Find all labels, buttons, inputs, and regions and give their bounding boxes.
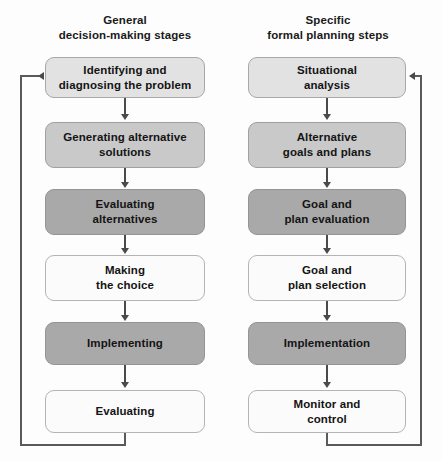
node-general-step-6-line1: Evaluating — [95, 404, 154, 419]
arrowhead-specific-5-6 — [323, 382, 331, 388]
arrowhead-feedback-specific — [409, 72, 415, 80]
flowchart-diagram: General decision-making stages Specific … — [0, 0, 442, 461]
node-general-step-2-line2: solutions — [63, 145, 187, 160]
connector-general-2-3 — [124, 168, 126, 183]
node-general-step-5-line1: Implementing — [87, 336, 163, 351]
node-general-step-3[interactable]: Evaluating alternatives — [45, 189, 205, 235]
arrowhead-specific-4-5 — [323, 315, 331, 321]
node-specific-step-4-line1: Goal and — [288, 263, 366, 278]
arrowhead-general-5-6 — [121, 382, 129, 388]
arrowhead-general-4-5 — [121, 315, 129, 321]
node-general-step-4-line1: Making — [96, 263, 154, 278]
node-specific-step-1-line2: analysis — [297, 78, 357, 93]
column-header-specific: Specific formal planning steps — [228, 13, 428, 43]
feedback-general-up — [20, 76, 22, 445]
node-specific-step-3[interactable]: Goal and plan evaluation — [248, 189, 406, 235]
arrowhead-specific-3-4 — [323, 248, 331, 254]
node-specific-step-6-line2: control — [294, 412, 361, 427]
node-specific-step-5-line1: Implementation — [284, 336, 370, 351]
node-general-step-3-line1: Evaluating — [92, 197, 157, 212]
connector-general-5-6 — [124, 365, 126, 383]
connector-general-3-4 — [124, 235, 126, 249]
feedback-specific-top — [414, 75, 422, 77]
connector-specific-5-6 — [326, 365, 328, 383]
node-specific-step-6[interactable]: Monitor and control — [248, 390, 406, 433]
node-general-step-1[interactable]: Identifying and diagnosing the problem — [45, 57, 205, 98]
node-general-step-4[interactable]: Making the choice — [45, 255, 205, 301]
node-specific-step-1-line1: Situational — [297, 63, 357, 78]
column-header-specific-line1: Specific — [228, 13, 428, 28]
node-general-step-5[interactable]: Implementing — [45, 322, 205, 365]
node-general-step-3-line2: alternatives — [92, 212, 157, 227]
node-specific-step-1[interactable]: Situational analysis — [248, 57, 406, 98]
node-specific-step-5[interactable]: Implementation — [248, 322, 406, 365]
node-specific-step-4[interactable]: Goal and plan selection — [248, 255, 406, 301]
connector-specific-4-5 — [326, 301, 328, 316]
feedback-specific-up — [420, 76, 422, 445]
arrowhead-specific-2-3 — [323, 182, 331, 188]
feedback-general-bottom — [20, 444, 126, 446]
connector-specific-1-2 — [326, 98, 328, 115]
node-general-step-6[interactable]: Evaluating — [45, 390, 205, 433]
node-general-step-2[interactable]: Generating alternative solutions — [45, 122, 205, 168]
arrowhead-general-2-3 — [121, 182, 129, 188]
arrowhead-specific-1-2 — [323, 114, 331, 120]
node-general-step-2-line1: Generating alternative — [63, 130, 187, 145]
arrowhead-feedback-general — [38, 72, 44, 80]
node-specific-step-2-line1: Alternative — [283, 130, 371, 145]
arrowhead-general-1-2 — [121, 114, 129, 120]
node-general-step-4-line2: the choice — [96, 278, 154, 293]
connector-specific-3-4 — [326, 235, 328, 249]
connector-specific-2-3 — [326, 168, 328, 183]
node-specific-step-6-line1: Monitor and — [294, 397, 361, 412]
arrowhead-general-3-4 — [121, 248, 129, 254]
node-specific-step-2-line2: goals and plans — [283, 145, 371, 160]
column-header-general-line2: decision-making stages — [25, 28, 225, 43]
connector-general-4-5 — [124, 301, 126, 316]
node-specific-step-3-line1: Goal and — [284, 197, 369, 212]
connector-general-1-2 — [124, 98, 126, 115]
node-specific-step-2[interactable]: Alternative goals and plans — [248, 122, 406, 168]
feedback-general-top — [20, 75, 39, 77]
feedback-specific-bottom — [326, 444, 422, 446]
node-general-step-1-line1: Identifying and — [59, 63, 192, 78]
column-header-general: General decision-making stages — [25, 13, 225, 43]
column-header-specific-line2: formal planning steps — [228, 28, 428, 43]
column-header-general-line1: General — [25, 13, 225, 28]
node-specific-step-4-line2: plan selection — [288, 278, 366, 293]
node-specific-step-3-line2: plan evaluation — [284, 212, 369, 227]
node-general-step-1-line2: diagnosing the problem — [59, 78, 192, 93]
